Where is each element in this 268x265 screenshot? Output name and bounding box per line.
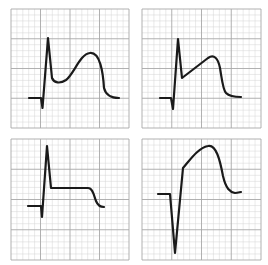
ecg-panel-top-right <box>142 9 261 128</box>
ecg-panel-bottom-right <box>142 139 261 260</box>
grid-paper <box>11 9 129 128</box>
grid-paper <box>11 139 129 260</box>
grid-paper <box>142 139 261 260</box>
ecg-panel-bottom-left <box>11 139 129 260</box>
grid-paper <box>142 9 261 128</box>
ecg-panels-svg <box>0 0 268 265</box>
ecg-panel-top-left <box>11 9 129 128</box>
ecg-figure <box>0 0 268 265</box>
